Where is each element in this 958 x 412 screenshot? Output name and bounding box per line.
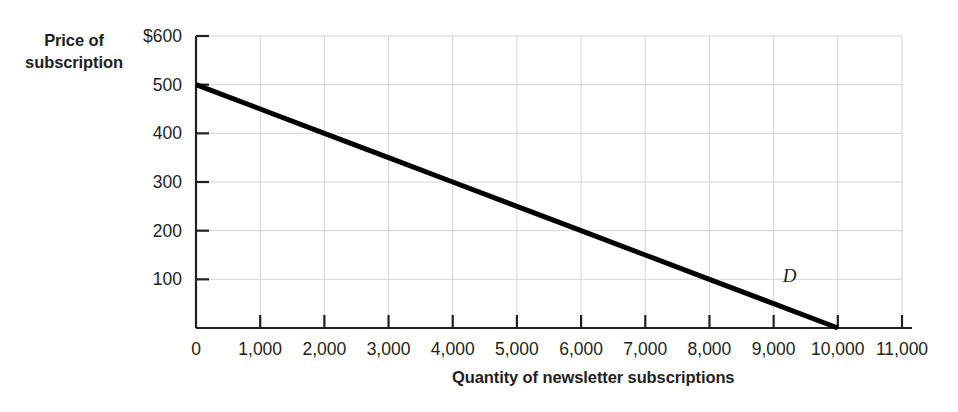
demand-curve-plot: 100200300400500$600 01,0002,0003,0004,00… (0, 0, 958, 412)
x-axis-tick-label: 5,000 (495, 339, 539, 359)
y-axis-tick-labels: 100200300400500$600 (143, 26, 182, 289)
x-axis-tick-label: 1,000 (238, 339, 282, 359)
x-axis-tick-label: 8,000 (688, 339, 732, 359)
x-axis-tick-label: 6,000 (559, 339, 603, 359)
x-axis-tick-label: 3,000 (367, 339, 411, 359)
y-axis-tick-label: 300 (153, 172, 182, 192)
x-axis-tick-label: 9,000 (752, 339, 796, 359)
x-axis-tick-label: 4,000 (431, 339, 475, 359)
x-axis-tick-label: 7,000 (623, 339, 667, 359)
x-axis-tick-label: 11,000 (876, 339, 928, 359)
y-axis-ticks (196, 36, 209, 279)
x-axis-tick-label: 10,000 (811, 339, 865, 359)
curve-annotation: D (782, 265, 797, 286)
x-axis-tick-label: 0 (191, 339, 201, 359)
y-axis-tick-label: 100 (153, 269, 182, 289)
chart-figure: Price of subscription 100200300400500$60… (0, 0, 958, 412)
x-axis-tick-label: 2,000 (302, 339, 346, 359)
y-axis-tick-label: 400 (153, 123, 182, 143)
demand-curve-label: D (782, 265, 797, 286)
y-axis-tick-label: 500 (153, 75, 182, 95)
y-axis-tick-label: $600 (143, 26, 182, 46)
x-axis-tick-labels: 01,0002,0003,0004,0005,0006,0007,0008,00… (191, 339, 928, 359)
y-axis-tick-label: 200 (153, 221, 182, 241)
x-axis-title: Quantity of newsletter subscriptions (452, 368, 734, 387)
